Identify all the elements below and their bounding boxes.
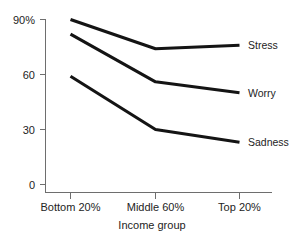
line-chart: 90% 60 30 0 Bottom 20% Middle 60% Top 20… xyxy=(0,0,298,243)
y-tick-label-30: 30 xyxy=(23,124,35,136)
series-line-stress xyxy=(71,20,240,49)
series-line-sadness xyxy=(71,76,240,142)
series-label-sadness: Sadness xyxy=(248,136,289,148)
y-tick-label-90: 90% xyxy=(13,14,35,26)
x-tick-label-middle60: Middle 60% xyxy=(127,201,185,213)
x-axis-title: Income group xyxy=(118,219,185,231)
series-line-worry xyxy=(71,34,240,93)
chart-canvas: 90% 60 30 0 Bottom 20% Middle 60% Top 20… xyxy=(0,0,298,243)
y-tick-label-60: 60 xyxy=(23,69,35,81)
y-tick-label-0: 0 xyxy=(29,179,35,191)
series-label-worry: Worry xyxy=(248,87,277,99)
series-label-stress: Stress xyxy=(248,39,278,51)
x-tick-label-bottom20: Bottom 20% xyxy=(41,201,101,213)
x-tick-label-top20: Top 20% xyxy=(218,201,261,213)
